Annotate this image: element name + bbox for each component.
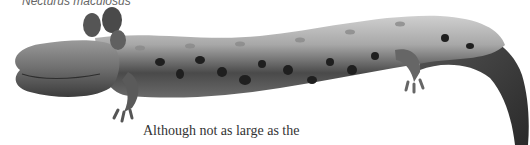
gill	[110, 30, 126, 50]
body	[95, 16, 505, 98]
gill	[83, 13, 101, 37]
gill	[102, 7, 122, 33]
head	[15, 40, 119, 97]
body-text-line: Although not as large as the	[143, 123, 299, 139]
